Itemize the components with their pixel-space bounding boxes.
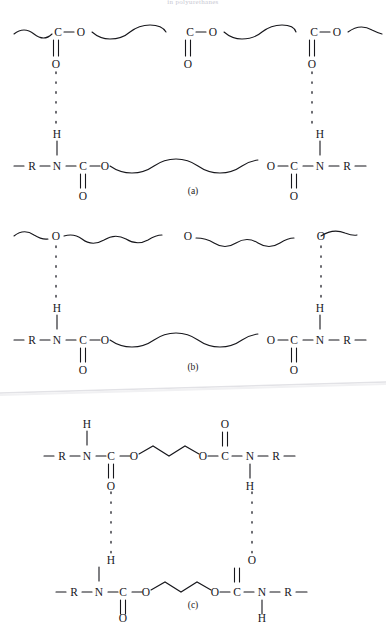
chain-wave (64, 235, 162, 243)
atom-label: O (52, 58, 60, 70)
atom-label: O (184, 58, 192, 70)
atom-label: N (83, 450, 92, 462)
chain-wave (14, 30, 52, 38)
panel-b-svg: O O O H H R N C O O C N R O O (0, 212, 386, 380)
atom-label: N (246, 450, 255, 462)
atom-label: O (267, 160, 275, 172)
atom-label: R (28, 160, 36, 172)
atom-label: H (53, 128, 61, 140)
chain-wave (14, 232, 48, 239)
atom-label: C (310, 26, 318, 38)
chain-wave (348, 27, 382, 34)
atom-label: N (316, 160, 325, 172)
atom-label: O (308, 58, 316, 70)
atom-label: O (211, 586, 219, 598)
atom-label: R (272, 450, 280, 462)
butanediol-zigzag (151, 582, 211, 592)
atom-label: O (107, 480, 115, 492)
atom-label: R (343, 334, 351, 346)
panel-c-svg: H O R N C O O C N R O H H O R N C O O (0, 396, 386, 622)
atom-label: O (209, 26, 217, 38)
atom-label: O (101, 160, 109, 172)
atom-label: H (53, 302, 61, 314)
atom-label: O (77, 26, 85, 38)
atom-label: C (79, 160, 87, 172)
atom-label: O (333, 26, 341, 38)
atom-label: R (70, 586, 78, 598)
atom-label: C (79, 334, 87, 346)
atom-label: C (290, 160, 298, 172)
atom-label: N (258, 586, 267, 598)
chain-wave (92, 25, 166, 39)
atom-label: O (184, 230, 192, 242)
chain-wave (110, 333, 258, 347)
atom-label: O (130, 450, 138, 462)
atom-label: H (107, 554, 115, 566)
atom-label: N (53, 334, 62, 346)
atom-label: O (52, 230, 60, 242)
atom-label: O (221, 418, 229, 430)
panel-c: H O R N C O O C N R O H H O R N C O O (0, 396, 386, 622)
panel-caption-a: (a) (0, 186, 386, 196)
atom-label: R (284, 586, 292, 598)
atom-label: H (316, 302, 324, 314)
atom-label: N (95, 586, 104, 598)
atom-label: O (119, 612, 127, 622)
chain-wave (224, 25, 296, 39)
atom-label: C (221, 450, 229, 462)
atom-label: R (28, 334, 36, 346)
atom-label: C (119, 586, 127, 598)
atom-label: C (54, 26, 62, 38)
atom-label: C (290, 334, 298, 346)
atom-label: O (267, 334, 275, 346)
panel-a: C O C O C O O O O H H R N C O O C N R O (0, 8, 386, 204)
panel-b: O O O H H R N C O O C N R O O (0, 212, 386, 380)
atom-label: N (316, 334, 325, 346)
atom-label: O (101, 334, 109, 346)
atom-label: O (199, 450, 207, 462)
panel-a-svg: C O C O C O O O O H H R N C O O C N R O (0, 8, 386, 204)
atom-label: H (83, 418, 91, 430)
chain-wave (321, 231, 357, 236)
butanediol-zigzag (139, 446, 199, 456)
atom-label: C (233, 586, 241, 598)
atom-label: O (142, 586, 150, 598)
figure-page: in polyurethanes (0, 0, 386, 622)
top-caption-text: in polyurethanes (0, 0, 386, 6)
atom-label: N (53, 160, 62, 172)
chain-wave (110, 159, 258, 173)
atom-label: C (107, 450, 115, 462)
atom-label: O (248, 554, 256, 566)
atom-label: R (58, 450, 66, 462)
atom-label: H (258, 612, 266, 622)
atom-label: O (317, 230, 325, 242)
panel-caption-c: (c) (0, 600, 386, 610)
atom-label: H (246, 480, 254, 492)
atom-label: R (343, 160, 351, 172)
chain-wave (196, 238, 294, 247)
atom-label: H (316, 128, 324, 140)
panel-caption-b: (b) (0, 362, 386, 372)
atom-label: C (186, 26, 194, 38)
